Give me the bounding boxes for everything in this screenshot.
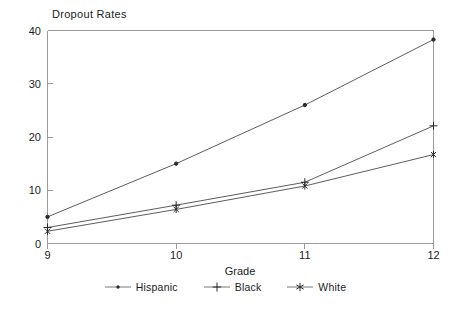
series-line-hispanic xyxy=(48,40,434,217)
plot-area: 40 30 20 10 0 9 10 11 12 Grade xyxy=(0,0,451,314)
chart-legend: Hispanic Black White xyxy=(0,281,451,293)
legend-marker-dot-icon xyxy=(105,281,131,293)
legend-label-black: Black xyxy=(235,281,262,293)
x-tick-label-10: 10 xyxy=(170,249,182,261)
data-point xyxy=(46,215,49,218)
series-markers-black xyxy=(44,122,438,232)
series-line-black xyxy=(48,126,434,228)
legend-marker-asterisk-icon xyxy=(287,281,313,293)
series-markers-white xyxy=(45,151,436,235)
data-point xyxy=(432,38,435,41)
x-tick-label-11: 11 xyxy=(299,249,310,261)
y-tick-label-10: 10 xyxy=(29,184,41,196)
x-tick-label-12: 12 xyxy=(427,249,439,261)
legend-item-black[interactable]: Black xyxy=(204,281,262,293)
legend-item-white[interactable]: White xyxy=(287,281,346,293)
legend-item-hispanic[interactable]: Hispanic xyxy=(105,281,178,293)
y-tick-label-20: 20 xyxy=(29,131,41,143)
series-markers-hispanic xyxy=(46,38,435,219)
chart-container: Dropout Rates 40 30 20 10 0 9 10 11 12 G… xyxy=(0,0,451,314)
x-tick-label-9: 9 xyxy=(44,249,50,261)
data-point xyxy=(430,122,438,130)
legend-label-white: White xyxy=(318,281,346,293)
plot-frame xyxy=(48,31,434,244)
legend-label-hispanic: Hispanic xyxy=(136,281,178,293)
y-tick-label-30: 30 xyxy=(29,78,41,90)
legend-marker-plus-icon xyxy=(204,281,230,293)
data-point xyxy=(174,162,177,165)
y-tick-label-40: 40 xyxy=(29,25,41,37)
data-point xyxy=(303,103,306,106)
y-tick-label-0: 0 xyxy=(35,238,41,250)
x-axis-title: Grade xyxy=(225,265,256,277)
